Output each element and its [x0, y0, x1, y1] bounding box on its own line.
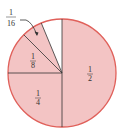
label-sixteenth-callout: 1 16 [6, 8, 16, 28]
fraction-pie-diagram: 1 2 1 4 1 8 1 16 [0, 0, 120, 129]
svg-text:2: 2 [88, 74, 92, 83]
svg-text:1: 1 [9, 8, 13, 17]
svg-text:8: 8 [31, 61, 35, 70]
svg-text:4: 4 [36, 98, 40, 107]
svg-text:16: 16 [7, 19, 15, 28]
svg-text:1: 1 [31, 52, 35, 61]
svg-text:1: 1 [36, 89, 40, 98]
svg-text:1: 1 [88, 65, 92, 74]
